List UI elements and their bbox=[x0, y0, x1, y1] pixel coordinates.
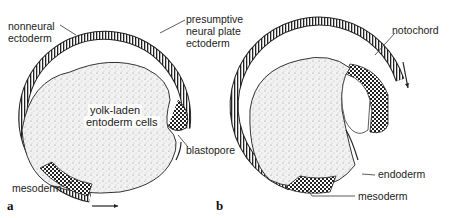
label-line: yolk-laden bbox=[88, 104, 142, 116]
panel-label-a: a bbox=[7, 198, 14, 214]
panel-label-b: b bbox=[216, 198, 223, 214]
label-presumptive-neural-plate-ectoderm: presumptive neural plate ectoderm bbox=[186, 13, 243, 49]
label-line: neural plate bbox=[186, 25, 243, 37]
label-mesoderm-a: mesoderm bbox=[12, 182, 62, 194]
label-mesoderm-b: mesoderm bbox=[358, 190, 408, 202]
label-line: presumptive bbox=[186, 13, 243, 25]
label-yolk-laden-entoderm-cells: yolk-laden entoderm cells bbox=[84, 104, 160, 128]
label-nonneural-ectoderm: nonneural ectoderm bbox=[8, 20, 55, 44]
label-line: entoderm cells bbox=[84, 116, 160, 128]
label-blastopore: blastopore bbox=[186, 144, 235, 156]
label-endoderm: endoderm bbox=[378, 168, 425, 180]
label-line: ectoderm bbox=[186, 37, 243, 49]
label-line: nonneural bbox=[8, 20, 55, 32]
label-line: ectoderm bbox=[8, 32, 55, 44]
label-notochord: notochord bbox=[392, 24, 439, 36]
